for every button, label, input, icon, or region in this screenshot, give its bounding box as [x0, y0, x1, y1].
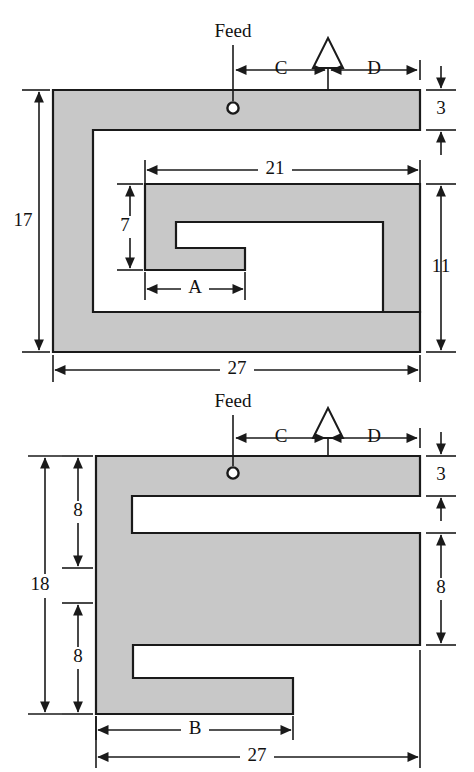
bottom-dim-3-label: 3 [436, 463, 446, 484]
bottom-feed-point-icon [227, 467, 238, 478]
top-dim-A-label: A [188, 276, 202, 297]
top-dim-C-label: C [275, 57, 288, 78]
bottom-feed-label: Feed [215, 390, 252, 411]
bottom-dim-D-label: D [367, 425, 381, 446]
top-dim-27-label: 27 [228, 357, 247, 378]
bottom-dim-18-label: 18 [31, 573, 50, 594]
top-feed-point-icon [227, 102, 238, 113]
top-dim-21-label: 21 [266, 157, 285, 178]
top-diagram-group: Feed C D 3 11 17 27 [14, 20, 457, 382]
bottom-antenna-metal [96, 456, 420, 714]
top-dim-3-label: 3 [436, 97, 446, 118]
bottom-dim-8low-label: 8 [73, 645, 83, 666]
figure-root: Feed C D 3 11 17 27 [0, 0, 474, 772]
top-dim-7-label: 7 [120, 214, 130, 235]
top-dim-D-label-text: D [367, 57, 381, 78]
top-feed-label: Feed [215, 20, 252, 41]
bottom-dim-27-label: 27 [248, 744, 267, 765]
bottom-dim-B-label: B [189, 717, 202, 738]
top-dim-17-label: 17 [14, 209, 33, 230]
bottom-dim-8mid-label: 8 [436, 576, 446, 597]
antenna-dimension-diagram: Feed C D 3 11 17 27 [0, 0, 474, 772]
bottom-dim-C-label: C [275, 425, 288, 446]
bottom-ground-triangle-icon [313, 408, 343, 438]
bottom-dim-8up-label: 8 [73, 499, 83, 520]
top-ground-triangle-icon [313, 38, 343, 68]
top-dim-11-label: 11 [432, 255, 450, 276]
bottom-diagram-group: Feed C D 3 8 8 8 [22, 390, 456, 768]
